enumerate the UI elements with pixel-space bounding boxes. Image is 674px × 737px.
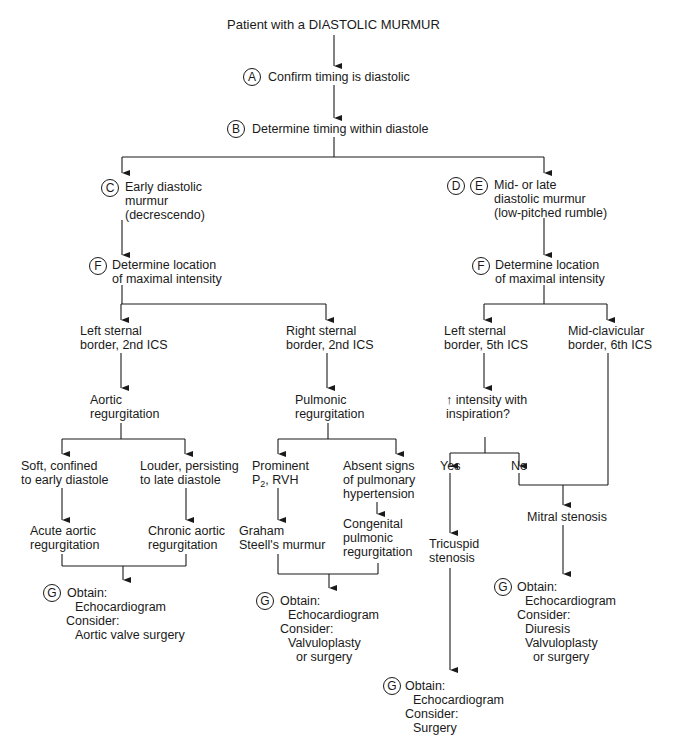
graham-steell-murmur-node: Graham Steell's murmur xyxy=(239,524,325,552)
congenital-pulmonic-regurgitation-node: Congenital pulmonic regurgitation xyxy=(343,517,413,559)
tricuspid-stenosis-node: Tricuspid stenosis xyxy=(429,537,479,565)
right-sternal-2nd-ics-node: Right sternal border, 2nd ICS xyxy=(286,324,374,352)
step-badge-g1: G xyxy=(43,584,61,602)
step-badge-g2: G xyxy=(256,592,274,610)
workup-mitral-node: Obtain: Echocardiogram Consider: Diuresi… xyxy=(517,580,616,664)
title-node: Patient with a DIASTOLIC MURMUR xyxy=(227,18,440,32)
determine-location-left-node: Determine location of maximal intensity xyxy=(112,258,222,286)
determine-location-right-node: Determine location of maximal intensity xyxy=(495,258,605,286)
left-sternal-2nd-ics-node: Left sternal border, 2nd ICS xyxy=(80,324,168,352)
determine-timing-node: Determine timing within diastole xyxy=(252,122,428,136)
step-badge-b: B xyxy=(227,120,245,138)
step-badge-g4: G xyxy=(494,578,512,596)
step-badge-a: A xyxy=(243,68,261,86)
left-sternal-5th-ics-node: Left sternal border, 5th ICS xyxy=(444,324,528,352)
flowchart-canvas: Patient with a DIASTOLIC MURMUR A Confir… xyxy=(0,0,674,737)
soft-early-diastole-node: Soft, confined to early diastole xyxy=(21,459,109,487)
up-arrow-icon: ↑ xyxy=(446,393,452,407)
aortic-regurgitation-node: Aortic regurgitation xyxy=(90,393,160,421)
early-diastolic-node: Early diastolic murmur (decrescendo) xyxy=(125,180,205,222)
workup-tricuspid-node: Obtain: Echocardiogram Consider: Surgery xyxy=(405,679,504,735)
intensity-inspiration-node: ↑ intensity with inspiration? xyxy=(446,393,527,421)
absent-pulmonary-hypertension-node: Absent signs of pulmonary hypertension xyxy=(343,459,415,501)
step-badge-e: E xyxy=(470,177,488,195)
step-badge-g3: G xyxy=(383,677,401,695)
louder-late-diastole-node: Louder, persisting to late diastole xyxy=(140,459,239,487)
prominent-p2-rvh-node: Prominent P2, RVH xyxy=(252,459,309,487)
confirm-timing-node: Confirm timing is diastolic xyxy=(268,70,410,84)
workup-pulmonic-node: Obtain: Echocardiogram Consider: Valvulo… xyxy=(280,594,379,664)
workup-aortic-node: Obtain: Echocardiogram Consider: Aortic … xyxy=(67,586,185,642)
step-badge-f-left: F xyxy=(89,257,107,275)
mid-clavicular-6th-ics-node: Mid-clavicular border, 6th ICS xyxy=(568,324,652,352)
pulmonic-regurgitation-node: Pulmonic regurgitation xyxy=(295,393,365,421)
mitral-stenosis-node: Mitral stenosis xyxy=(527,510,607,524)
mid-late-diastolic-node: Mid- or late diastolic murmur (low-pitch… xyxy=(494,178,607,220)
yes-node: Yes xyxy=(440,459,460,473)
no-node: No xyxy=(511,459,527,473)
step-badge-f-right: F xyxy=(472,257,490,275)
acute-aortic-regurgitation-node: Acute aortic regurgitation xyxy=(30,524,100,552)
step-badge-c: C xyxy=(101,179,119,197)
step-badge-d: D xyxy=(447,177,465,195)
chronic-aortic-regurgitation-node: Chronic aortic regurgitation xyxy=(148,524,225,552)
